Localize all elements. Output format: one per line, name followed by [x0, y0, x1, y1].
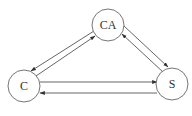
node-s: S: [156, 68, 188, 100]
edge-s-to-ca: [122, 34, 163, 72]
node-c: C: [8, 70, 40, 102]
edge-ca-to-s: [124, 26, 168, 67]
edge-c-to-ca: [36, 36, 95, 76]
node-s-label: S: [169, 77, 176, 91]
node-ca-label: CA: [100, 18, 117, 32]
network-diagram: CA C S: [0, 0, 192, 116]
node-c-label: C: [20, 79, 28, 93]
node-ca: CA: [92, 9, 124, 41]
edge-ca-to-c: [31, 31, 94, 71]
